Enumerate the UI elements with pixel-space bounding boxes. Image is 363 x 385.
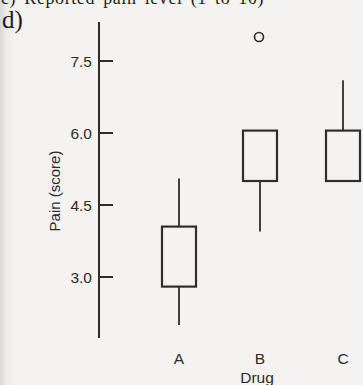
box-A (162, 227, 196, 287)
outlier-point-B (255, 33, 264, 42)
y-tick-label: 4.5 (70, 197, 92, 214)
x-category-label-A: A (174, 350, 185, 367)
y-tick-label: 6.0 (70, 125, 92, 142)
x-axis-title: Drug (240, 369, 274, 385)
x-category-label-C: C (337, 350, 348, 367)
box-C (326, 131, 360, 181)
y-tick-label: 7.5 (70, 53, 92, 70)
y-axis-title: Pain (score) (46, 151, 63, 232)
scanned-textbook-figure: c) Reported pain level (1 to 10) d) 3.04… (0, 0, 363, 385)
box-B (243, 131, 277, 181)
y-tick-label: 3.0 (70, 269, 92, 286)
panel-label-d: d) (2, 6, 23, 34)
boxplot-chart: 3.04.56.07.5Pain (score)ABCDrug (0, 0, 363, 385)
x-category-label-B: B (255, 350, 265, 367)
